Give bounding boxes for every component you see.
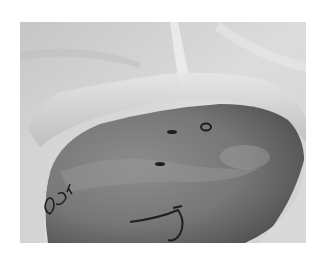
incision-mark-middle [155, 162, 165, 166]
surgical-photo [20, 22, 306, 243]
incision-mark-top [167, 130, 177, 134]
skin-highlight [220, 145, 270, 169]
photo-canvas [20, 22, 306, 243]
